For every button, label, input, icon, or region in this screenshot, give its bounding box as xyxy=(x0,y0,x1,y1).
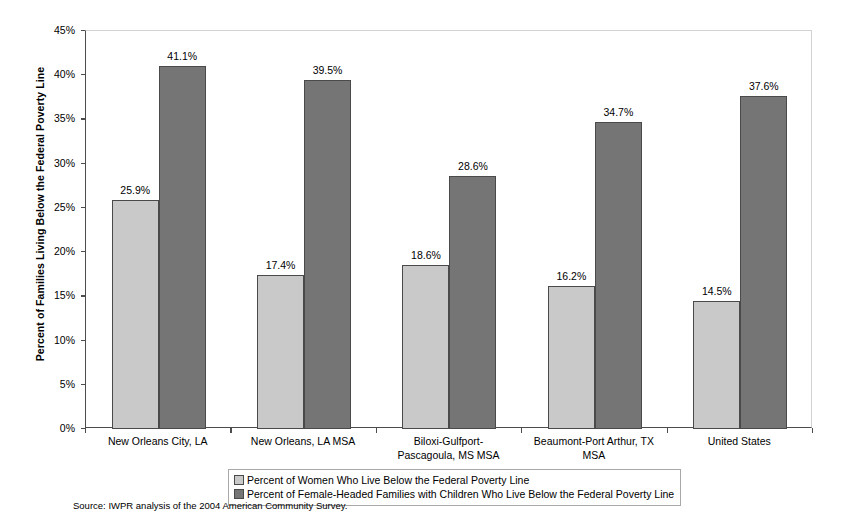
bar-wrapper: 16.2% xyxy=(548,31,595,429)
x-axis-category-label: Biloxi-Gulfport-Pascagoula, MS MSA xyxy=(376,434,521,462)
bar-wrapper: 18.6% xyxy=(402,31,449,429)
x-axis-tick-mark xyxy=(85,428,86,433)
bar-value-label: 34.7% xyxy=(603,106,633,118)
bar-wrapper: 17.4% xyxy=(257,31,304,429)
y-axis-tick-label: 5% xyxy=(60,378,75,390)
legend-swatch-icon xyxy=(234,489,244,499)
x-axis-tick-mark xyxy=(230,428,231,433)
chart-figure: Percent of Families Living Below the Fed… xyxy=(0,0,854,532)
bar-value-label: 28.6% xyxy=(458,160,488,172)
bar-wrapper: 25.9% xyxy=(112,31,159,429)
x-axis-category-label-line: Beaumont-Port Arthur, TX xyxy=(521,434,666,448)
x-axis-category-label: New Orleans City, LA xyxy=(85,434,230,448)
y-axis-tick-label: 15% xyxy=(54,289,75,301)
bar[interactable]: 37.6% xyxy=(740,96,787,429)
legend-item[interactable]: Percent of Women Who Live Below the Fede… xyxy=(234,473,674,487)
x-axis-category-label-line: MSA xyxy=(521,448,666,462)
x-axis-category-label-line: New Orleans, LA MSA xyxy=(230,434,375,448)
legend-item[interactable]: Percent of Female-Headed Families with C… xyxy=(234,487,674,501)
x-axis-tick-mark xyxy=(812,428,813,433)
bar-group: 25.9%41.1% xyxy=(86,31,231,429)
bar[interactable]: 18.6% xyxy=(402,265,449,430)
bar-groups: 25.9%41.1%17.4%39.5%18.6%28.6%16.2%34.7%… xyxy=(86,31,813,429)
y-axis-tick-labels: 0%5%10%15%20%25%30%35%40%45% xyxy=(0,30,85,428)
bar-value-label: 17.4% xyxy=(266,259,296,271)
x-axis-category-label-line: New Orleans City, LA xyxy=(85,434,230,448)
bar[interactable]: 28.6% xyxy=(449,176,496,429)
bar-wrapper: 14.5% xyxy=(693,31,740,429)
bar-value-label: 18.6% xyxy=(411,249,441,261)
legend-swatch-icon xyxy=(234,475,244,485)
bar-value-label: 41.1% xyxy=(167,50,197,62)
bar-value-label: 25.9% xyxy=(120,184,150,196)
y-axis-tick-label: 45% xyxy=(54,24,75,36)
y-axis-tick-label: 40% xyxy=(54,68,75,80)
bar[interactable]: 17.4% xyxy=(257,275,304,429)
bar[interactable]: 41.1% xyxy=(159,66,206,430)
x-axis-category-label-line: Pascagoula, MS MSA xyxy=(376,448,521,462)
bar[interactable]: 39.5% xyxy=(304,80,351,429)
x-axis-tick-mark xyxy=(376,428,377,433)
bar-wrapper: 39.5% xyxy=(304,31,351,429)
bar-group: 14.5%37.6% xyxy=(668,31,813,429)
plot-area: 25.9%41.1%17.4%39.5%18.6%28.6%16.2%34.7%… xyxy=(85,30,812,428)
bar-wrapper: 28.6% xyxy=(449,31,496,429)
y-axis-tick-label: 20% xyxy=(54,245,75,257)
x-axis-category-label-line: United States xyxy=(667,434,812,448)
x-axis-category-label: Beaumont-Port Arthur, TXMSA xyxy=(521,434,666,462)
x-axis-category-labels: New Orleans City, LANew Orleans, LA MSAB… xyxy=(85,434,812,474)
y-axis-tick-label: 30% xyxy=(54,157,75,169)
source-note: Source: IWPR analysis of the 2004 Americ… xyxy=(73,500,347,511)
bar-value-label: 39.5% xyxy=(313,64,343,76)
x-axis-category-label: New Orleans, LA MSA xyxy=(230,434,375,448)
bar[interactable]: 14.5% xyxy=(693,301,740,429)
bar[interactable]: 34.7% xyxy=(595,122,642,429)
y-axis-tick-label: 0% xyxy=(60,422,75,434)
bar-value-label: 16.2% xyxy=(556,270,586,282)
x-axis-category-label-line: Biloxi-Gulfport- xyxy=(376,434,521,448)
x-axis-tick-mark xyxy=(667,428,668,433)
y-axis-tick-label: 25% xyxy=(54,201,75,213)
x-axis-category-label: United States xyxy=(667,434,812,448)
bar-value-label: 14.5% xyxy=(702,285,732,297)
bar[interactable]: 25.9% xyxy=(112,200,159,429)
x-axis-tick-mark xyxy=(521,428,522,433)
legend-item-label: Percent of Female-Headed Families with C… xyxy=(247,488,674,500)
bar-value-label: 37.6% xyxy=(749,80,779,92)
bar-wrapper: 34.7% xyxy=(595,31,642,429)
bar-group: 18.6%28.6% xyxy=(377,31,522,429)
legend-item-label: Percent of Women Who Live Below the Fede… xyxy=(247,474,529,486)
bar-wrapper: 41.1% xyxy=(159,31,206,429)
y-axis-tick-label: 10% xyxy=(54,334,75,346)
y-axis-tick-label: 35% xyxy=(54,112,75,124)
bar[interactable]: 16.2% xyxy=(548,286,595,429)
bar-wrapper: 37.6% xyxy=(740,31,787,429)
bar-group: 17.4%39.5% xyxy=(231,31,376,429)
bar-group: 16.2%34.7% xyxy=(522,31,667,429)
